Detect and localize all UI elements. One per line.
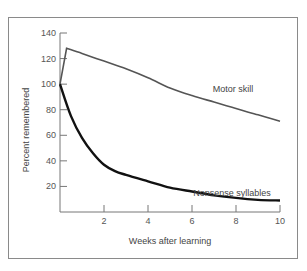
x-tick-label: 6 xyxy=(189,216,194,226)
x-tick-label: 2 xyxy=(101,216,106,226)
nonsense-syllables-label: Nonsense syllables xyxy=(193,188,271,198)
y-axis-title: Percent remembered xyxy=(21,88,31,173)
axes xyxy=(60,33,280,212)
nonsense-syllables-curve xyxy=(60,84,280,200)
x-tick-label: 8 xyxy=(233,216,238,226)
y-tick-label: 20 xyxy=(46,181,56,191)
y-tick-label: 100 xyxy=(41,79,56,89)
y-axis-ticks: 20406080100120140 xyxy=(41,28,67,191)
x-tick-label: 10 xyxy=(275,216,285,226)
forgetting-curve-chart: 20406080100120140 246810 Motor skill Non… xyxy=(0,0,307,271)
y-tick-label: 80 xyxy=(46,105,56,115)
y-tick-label: 60 xyxy=(46,130,56,140)
y-tick-label: 140 xyxy=(41,28,56,38)
y-tick-label: 40 xyxy=(46,156,56,166)
x-axis-ticks: 246810 xyxy=(101,205,285,226)
x-axis-title: Weeks after learning xyxy=(129,236,211,246)
x-tick-label: 4 xyxy=(145,216,150,226)
motor-skill-label: Motor skill xyxy=(213,84,254,94)
y-tick-label: 120 xyxy=(41,54,56,64)
